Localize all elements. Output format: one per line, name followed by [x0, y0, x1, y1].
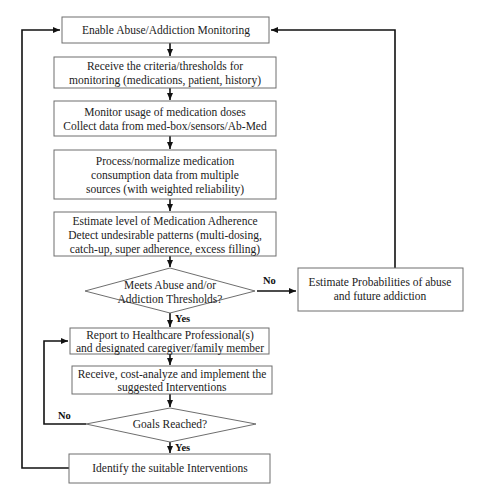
flowchart: Enable Abuse/Addiction Monitoring Receiv… — [0, 0, 483, 501]
arrow-probabilities-to-enable — [271, 30, 395, 268]
decision-text: Addiction Thresholds? — [118, 293, 223, 305]
node-text: and designated caregiver/family member — [76, 342, 264, 355]
node-text: Process/normalize medication — [96, 155, 235, 167]
edge-label-no: No — [263, 275, 276, 286]
edge-label-yes: Yes — [175, 442, 190, 453]
edge-label-yes: Yes — [175, 313, 190, 324]
node-monitor-usage: Monitor usage of medication doses Collec… — [54, 101, 276, 136]
node-report-healthcare: Report to Healthcare Professional(s) and… — [70, 328, 269, 355]
node-text: Estimate level of Medication Adherence — [72, 215, 257, 227]
decision-text: Goals Reached? — [133, 418, 207, 430]
node-text: Estimate Probabilities of abuse — [309, 276, 452, 288]
node-identify-interventions: Identify the suitable Interventions — [69, 454, 270, 483]
node-text: Monitor usage of medication doses — [84, 106, 246, 119]
decision-meets-thresholds: Meets Abuse and/or Addiction Thresholds? — [85, 268, 255, 313]
node-text: Detect undesirable patterns (multi-dosin… — [68, 229, 262, 242]
node-text: sources (with weighted reliability) — [86, 183, 244, 196]
node-estimate-probabilities: Estimate Probabilities of abuse and futu… — [298, 268, 463, 311]
node-text: monitoring (medications, patient, histor… — [69, 74, 261, 87]
node-text: Receive the criteria/thresholds for — [87, 60, 243, 72]
node-text: Enable Abuse/Addiction Monitoring — [82, 24, 250, 37]
node-receive-criteria: Receive the criteria/thresholds for moni… — [54, 57, 276, 88]
node-text: suggested Interventions — [118, 381, 227, 394]
node-text: Identify the suitable Interventions — [92, 462, 248, 475]
node-process-normalize: Process/normalize medication consumption… — [54, 150, 276, 199]
node-enable-monitoring: Enable Abuse/Addiction Monitoring — [62, 17, 269, 43]
decision-goals-reached: Goals Reached? — [86, 408, 256, 442]
node-text: consumption data from multiple — [91, 169, 239, 182]
node-text: catch-up, super adherence, excess fillin… — [70, 243, 260, 256]
node-text: Report to Healthcare Professional(s) — [86, 329, 254, 342]
node-estimate-adherence: Estimate level of Medication Adherence D… — [54, 212, 276, 256]
node-text: Collect data from med-box/sensors/Ab-Med — [63, 120, 267, 132]
node-text: Receive, cost-analyze and implement the — [78, 368, 267, 381]
node-text: and future addiction — [334, 290, 427, 302]
node-implement-interventions: Receive, cost-analyze and implement the … — [72, 366, 272, 394]
decision-text: Meets Abuse and/or — [124, 279, 216, 291]
edge-label-no: No — [58, 410, 71, 421]
